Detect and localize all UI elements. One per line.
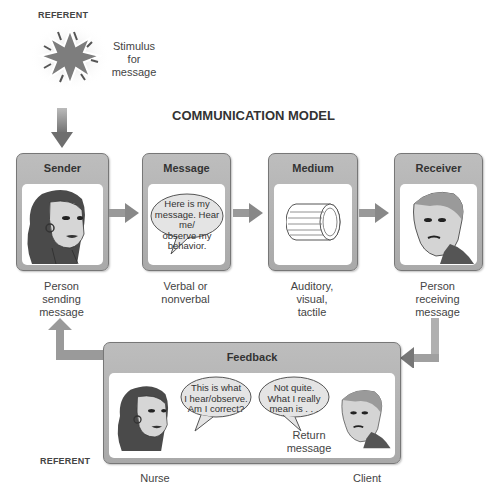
medium-header: Medium: [269, 154, 357, 184]
arrow-right-icon: [233, 203, 263, 227]
sender-caption: Person sending message: [16, 280, 107, 319]
receiver-caption-line: Person: [394, 280, 481, 293]
medium-caption-line: tactile: [268, 306, 356, 319]
message-bubble-text: Here is my message. Hear me/ observe my …: [150, 199, 224, 252]
bubble-line: message. Hear me/: [150, 210, 224, 231]
bubble-line: Not quite.: [259, 383, 329, 394]
bubble-line: Am I correct?: [181, 404, 251, 415]
feedback-header: Feedback: [104, 343, 400, 373]
bubble-line: behavior.: [150, 241, 224, 252]
return-message-label: Return message: [279, 429, 339, 455]
stimulus-line-1: Stimulus: [110, 40, 158, 53]
stimulus-line-2: for: [110, 53, 158, 66]
arrow-feedback-icon: [48, 318, 106, 370]
medium-caption-line: Auditory,: [268, 280, 356, 293]
receiver-body: [400, 184, 477, 265]
message-caption-line: nonverbal: [142, 293, 229, 306]
nurse-face-icon: [113, 375, 183, 457]
receiver-box: Receiver: [394, 153, 483, 271]
arrow-return-icon: [400, 318, 440, 372]
message-header: Message: [143, 154, 230, 184]
client-face-icon: [331, 375, 393, 457]
nurse-face-icon: [22, 184, 102, 264]
sender-body: [22, 184, 103, 265]
arrow-right-icon: [359, 203, 389, 227]
diagram-title: COMMUNICATION MODEL: [172, 108, 335, 123]
nurse-label: Nurse: [130, 472, 180, 485]
referent-top-label: REFERENT: [38, 10, 88, 20]
cylinder-medium-icon: [286, 202, 342, 242]
sender-box: Sender: [16, 153, 109, 271]
client-label: Client: [342, 472, 392, 485]
message-caption: Verbal or nonverbal: [142, 280, 229, 306]
receiver-caption-line: receiving: [394, 293, 481, 306]
medium-body: [274, 184, 352, 265]
receiver-caption: Person receiving message: [394, 280, 481, 319]
sender-caption-line: sending: [16, 293, 107, 306]
stimulus-line-3: message: [110, 66, 158, 79]
stimulus-starburst-icon: [30, 22, 110, 92]
arrow-right-icon: [109, 203, 139, 227]
bubble-line: Here is my: [150, 199, 224, 210]
medium-caption-line: visual,: [268, 293, 356, 306]
medium-caption: Auditory, visual, tactile: [268, 280, 356, 319]
sender-caption-line: Person: [16, 280, 107, 293]
return-line: Return: [279, 429, 339, 442]
referent-bottom-label: REFERENT: [40, 456, 90, 466]
bubble-line: mean is . . .: [259, 404, 329, 415]
message-caption-line: Verbal or: [142, 280, 229, 293]
client-face-icon: [400, 184, 477, 264]
return-line: message: [279, 442, 339, 455]
medium-box: Medium: [268, 153, 358, 271]
arrow-down-icon: [51, 108, 73, 150]
feedback-box: Feedback This is what I hear/observe. Am…: [103, 342, 401, 464]
receiver-header: Receiver: [395, 154, 482, 184]
bubble-line: This is what: [181, 383, 251, 394]
message-box: Message Here is my message. Hear me/ obs…: [142, 153, 231, 271]
sender-header: Sender: [17, 154, 108, 184]
nurse-bubble-text: This is what I hear/observe. Am I correc…: [181, 383, 251, 415]
feedback-body: This is what I hear/observe. Am I correc…: [109, 373, 395, 458]
message-body: Here is my message. Hear me/ observe my …: [148, 184, 225, 265]
stimulus-caption: Stimulus for message: [110, 40, 158, 79]
client-bubble-text: Not quite. What I really mean is . . .: [259, 383, 329, 415]
